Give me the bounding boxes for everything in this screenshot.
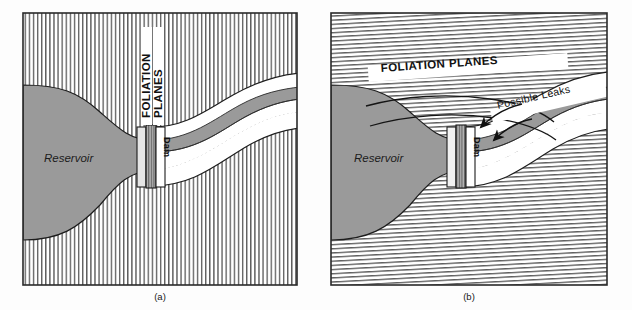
dam-upstream-face-b — [447, 127, 456, 187]
panel-b-caption: (b) — [463, 291, 475, 302]
figure-container: FOLIATION PLANES Dam Reservoir (a) — [0, 0, 632, 310]
dam-upstream-face-a — [137, 127, 146, 187]
panel-a-caption: (a) — [154, 291, 166, 302]
panel-a: FOLIATION PLANES Dam Reservoir (a) — [0, 0, 316, 310]
foliation-planes-label-a-line2: PLANES — [152, 69, 164, 118]
reservoir-label-a: Reservoir — [44, 152, 94, 164]
reservoir-label-b: Reservoir — [354, 152, 404, 164]
dam-label-a: Dam — [162, 137, 172, 157]
dam-core-b — [456, 125, 466, 188]
panel-a-diagram: FOLIATION PLANES Dam Reservoir (a) — [0, 0, 316, 310]
dam-core-a — [146, 125, 156, 188]
panel-b-diagram: FOLIATION PLANES Possible Leaks Dam Rese… — [308, 0, 632, 310]
foliation-planes-label-a-line1: FOLIATION — [140, 53, 152, 118]
panel-b: FOLIATION PLANES Possible Leaks Dam Rese… — [308, 0, 632, 310]
dam-label-b: Dam — [472, 137, 482, 157]
